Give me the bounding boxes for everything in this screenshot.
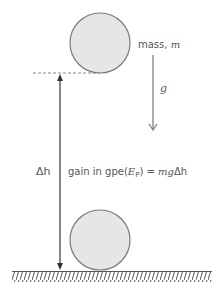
gravity-label: g — [160, 83, 167, 95]
height-arrow — [57, 74, 63, 270]
formula-dh: Δh — [174, 166, 187, 177]
equals-text: ) = — [139, 166, 158, 177]
delta-h-label: Δh — [36, 166, 51, 178]
mass-label: mass, m — [138, 39, 180, 51]
diagram-canvas — [0, 0, 224, 292]
top-ball — [70, 13, 130, 73]
gain-text: gain in gpe( — [68, 166, 128, 177]
arrow-down-icon — [57, 263, 63, 270]
mass-symbol: m — [171, 39, 180, 50]
ground — [12, 272, 212, 283]
bottom-ball — [70, 210, 130, 270]
gpe-formula: gain in gpe(EP) = mgΔh — [68, 166, 187, 181]
arrow-up-icon — [57, 74, 63, 81]
mass-text: mass, — [138, 39, 171, 50]
formula-mg: mg — [158, 166, 174, 177]
gravity-arrow — [149, 55, 157, 130]
